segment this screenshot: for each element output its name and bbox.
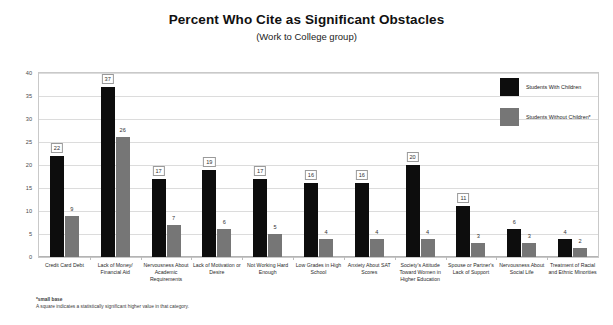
- bar-value-label: 4: [375, 228, 378, 236]
- bar-group: 204: [395, 73, 446, 257]
- chart-footnotes: *small base A square indicates a statist…: [36, 296, 189, 310]
- bar-value-label: 17: [152, 166, 164, 176]
- bar-group: 175: [242, 73, 293, 257]
- bar: 3: [471, 243, 485, 257]
- legend-swatch: [500, 108, 519, 126]
- category-label: Credit Card Debt: [39, 262, 90, 283]
- bar-group: 177: [141, 73, 192, 257]
- bar-value-label: 16: [356, 170, 368, 180]
- bar: 4: [421, 239, 435, 257]
- group-tick: [141, 257, 142, 260]
- bar: 19: [202, 170, 216, 257]
- bar-value-label: 26: [120, 126, 126, 134]
- bar-group: 113: [446, 73, 497, 257]
- y-axis-tick-label: 30: [8, 116, 32, 122]
- bar-value-label: 16: [305, 170, 317, 180]
- category-label: Society's Attitude Toward Women in Highe…: [395, 262, 446, 283]
- bar-value-label: 37: [102, 74, 114, 84]
- chart-figure: Percent Who Cite as Significant Obstacle…: [0, 0, 613, 325]
- group-tick: [90, 257, 91, 260]
- bar: 3: [522, 243, 536, 257]
- bar: 17: [152, 179, 166, 257]
- group-tick: [496, 257, 497, 260]
- bar: 22: [50, 156, 64, 257]
- bar: 9: [65, 216, 79, 257]
- category-label: Treatment of Racial and Ethnic Minoritie…: [547, 262, 598, 283]
- category-label: Low Grades in High School: [293, 262, 344, 283]
- legend-item[interactable]: Students With Children: [500, 78, 591, 96]
- legend-label: Students Without Children*: [526, 114, 591, 120]
- bar-value-label: 22: [51, 143, 63, 153]
- category-label: Not Working Hard Enough: [242, 262, 293, 283]
- bar: 16: [304, 183, 318, 257]
- group-tick: [242, 257, 243, 260]
- group-tick: [547, 257, 548, 260]
- category-label: Lack of Motivation or Desire: [191, 262, 242, 283]
- bar: 16: [355, 183, 369, 257]
- bar: 6: [217, 229, 231, 257]
- bar: 26: [116, 137, 130, 257]
- legend-item[interactable]: Students Without Children*: [500, 108, 591, 126]
- category-label: Nervousness About Social Life: [496, 262, 547, 283]
- group-tick: [293, 257, 294, 260]
- bar-value-label: 6: [223, 218, 226, 226]
- y-axis-tick-label: 20: [8, 162, 32, 168]
- bar-value-label: 4: [426, 228, 429, 236]
- bar: 6: [507, 229, 521, 257]
- bar: 5: [268, 234, 282, 257]
- group-tick: [191, 257, 192, 260]
- bar-value-label: 6: [513, 218, 516, 226]
- bar-group: 164: [293, 73, 344, 257]
- bar-group: 196: [191, 73, 242, 257]
- bar: 4: [319, 239, 333, 257]
- bar: 4: [370, 239, 384, 257]
- chart-legend: Students With ChildrenStudents Without C…: [500, 78, 591, 138]
- footnote-square-note: A square indicates a statistically signi…: [36, 303, 189, 310]
- bar: 7: [167, 225, 181, 257]
- bar-value-label: 5: [274, 223, 277, 231]
- y-axis-tick-label: 40: [8, 70, 32, 76]
- bar-value-label: 11: [458, 193, 470, 203]
- chart-title: Percent Who Cite as Significant Obstacle…: [0, 12, 613, 27]
- bar-value-label: 2: [578, 237, 581, 245]
- footnote-small-base: *small base: [36, 296, 189, 303]
- bar: 4: [558, 239, 572, 257]
- category-label: Anxiety About SAT Scores: [344, 262, 395, 283]
- bar-value-label: 3: [528, 232, 531, 240]
- bar-value-label: 7: [172, 214, 175, 222]
- y-axis-tick-label: 35: [8, 93, 32, 99]
- bar-group: 164: [344, 73, 395, 257]
- category-label: Lack of Money/ Financial Aid: [90, 262, 141, 283]
- y-axis-tick-label: 10: [8, 208, 32, 214]
- y-axis-tick-label: 25: [8, 139, 32, 145]
- category-label: Spouse or Partner's Lack of Support: [446, 262, 497, 283]
- bar: 20: [406, 165, 420, 257]
- bar-value-label: 19: [203, 157, 215, 167]
- bar: 2: [573, 248, 587, 257]
- bar-value-label: 4: [324, 228, 327, 236]
- bar-group: 3726: [90, 73, 141, 257]
- legend-label: Students With Children: [526, 84, 581, 90]
- bar: 11: [456, 206, 470, 257]
- bar-value-label: 9: [70, 205, 73, 213]
- bar-value-label: 17: [254, 166, 266, 176]
- bar-value-label: 4: [563, 228, 566, 236]
- category-label: Nervousness About Academic Requirements: [141, 262, 192, 283]
- chart-subtitle: (Work to College group): [0, 31, 613, 42]
- group-tick: [395, 257, 396, 260]
- y-axis-tick-label: 0: [8, 254, 32, 260]
- y-axis-tick-label: 5: [8, 231, 32, 237]
- bar-value-label: 20: [406, 152, 418, 162]
- group-tick: [446, 257, 447, 260]
- group-tick: [344, 257, 345, 260]
- y-axis-tick-label: 15: [8, 185, 32, 191]
- bar: 37: [101, 87, 115, 257]
- bar-group: 229: [39, 73, 90, 257]
- legend-swatch: [500, 78, 519, 96]
- bar: 17: [253, 179, 267, 257]
- category-labels: Credit Card DebtLack of Money/ Financial…: [39, 262, 598, 283]
- bar-value-label: 3: [477, 232, 480, 240]
